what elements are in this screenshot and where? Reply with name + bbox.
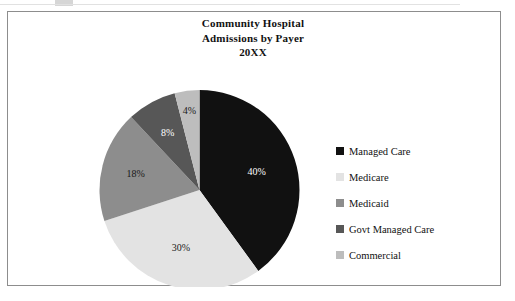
pie-chart: 40%30%18%8%4% [93, 72, 308, 287]
pie-slice-label: 18% [126, 168, 144, 179]
pie-chart-svg: 40%30%18%8%4% [93, 72, 308, 287]
legend-color-swatch [336, 199, 344, 207]
chart-title-line-2: Admissions by Payer [158, 31, 348, 46]
legend-color-swatch [336, 251, 344, 259]
chart-legend: Managed CareMedicareMedicaidGovt Managed… [336, 138, 501, 268]
chart-title-line-1: Community Hospital [158, 16, 348, 31]
legend-item-label: Commercial [349, 250, 401, 261]
pie-slice-label: 40% [247, 166, 265, 177]
legend-color-swatch [336, 225, 344, 233]
chart-title-line-3: 20XX [158, 45, 348, 60]
legend-item[interactable]: Commercial [336, 242, 501, 268]
figure-frame: Community Hospital Admissions by Payer 2… [7, 11, 501, 286]
legend-item[interactable]: Medicare [336, 164, 501, 190]
legend-color-swatch [336, 147, 344, 155]
legend-item-label: Govt Managed Care [349, 224, 434, 235]
legend-item-label: Medicaid [349, 198, 389, 209]
legend-item[interactable]: Govt Managed Care [336, 216, 501, 242]
pie-slice-label: 8% [161, 127, 174, 138]
legend-item[interactable]: Managed Care [336, 138, 501, 164]
pie-slice-label: 4% [183, 105, 196, 116]
top-clipped-artifact [55, 0, 73, 6]
legend-item-label: Managed Care [349, 146, 411, 157]
chart-title: Community Hospital Admissions by Payer 2… [158, 16, 348, 60]
legend-color-swatch [336, 173, 344, 181]
pie-slice-label: 30% [172, 242, 190, 253]
legend-item[interactable]: Medicaid [336, 190, 501, 216]
legend-item-label: Medicare [349, 172, 389, 183]
